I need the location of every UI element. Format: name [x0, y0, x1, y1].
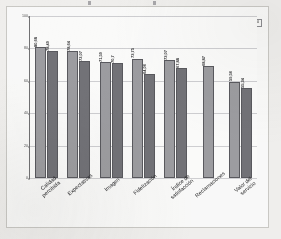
bar[interactable]: 80,68	[35, 47, 46, 178]
bar-value-label: 67,88	[176, 58, 180, 68]
bar[interactable]: 72,07	[79, 61, 90, 178]
bar[interactable]: 67,88	[176, 68, 187, 178]
y-tick-label: 60	[24, 80, 28, 84]
bar[interactable]: 73,07	[164, 60, 175, 178]
bar-groups: 80,6878,4978,6472,0771,5970,773,7564,067…	[30, 16, 257, 178]
crop-mark-left	[88, 1, 91, 5]
bar-group: 68,87	[192, 16, 224, 178]
category-axis-labels: CalidadpercibidaExpectativasImagenFideli…	[29, 180, 257, 224]
bar-group: 71,5970,7	[95, 16, 127, 178]
bar-value-label: 71,59	[99, 52, 103, 62]
bar[interactable]: 78,49	[47, 51, 58, 178]
y-tick-label: 80	[24, 48, 28, 52]
bar-value-label: 73,75	[132, 48, 136, 58]
bar-group: 59,5655,34	[225, 16, 257, 178]
category-label-cell: Reclamaciones	[192, 180, 225, 224]
category-label-cell: Imagen	[94, 180, 127, 224]
bar-group: 78,6472,07	[62, 16, 94, 178]
plot-area: 100 80 60 40 20 0 80,6878,4978,	[29, 16, 257, 179]
category-label-cell: Fidelización	[127, 180, 160, 224]
bar[interactable]: 73,75	[132, 59, 143, 178]
bar[interactable]: 55,34	[241, 88, 252, 178]
chart-frame: 1999 2000 100 80 60 40	[6, 6, 269, 228]
bar[interactable]: 68,87	[203, 66, 214, 178]
bar[interactable]: 70,7	[112, 63, 123, 178]
category-label-cell: Calidadpercibida	[29, 180, 62, 224]
y-tick-label: 0	[26, 177, 28, 181]
bar-value-label: 73,07	[164, 49, 168, 59]
bar-value-label: 68,87	[203, 56, 207, 66]
bar[interactable]: 64,06	[144, 74, 155, 178]
bar-value-label: 70,7	[111, 56, 115, 64]
bar-value-label: 72,07	[79, 51, 83, 61]
category-label-cell: Expectativas	[62, 180, 95, 224]
y-tick-label: 40	[24, 112, 28, 116]
bar-value-label: 80,68	[35, 37, 39, 47]
category-label-cell: Índice desatisfacción	[159, 180, 192, 224]
bar-group: 80,6878,49	[30, 16, 62, 178]
bar-value-label: 55,34	[241, 78, 245, 88]
bar-group: 73,0767,88	[160, 16, 192, 178]
scanned-page: 1999 2000 100 80 60 40	[0, 0, 281, 239]
bar-value-label: 78,49	[47, 41, 51, 51]
y-tick-label: 20	[24, 145, 28, 149]
bar-value-label: 64,06	[144, 64, 148, 74]
crop-mark-right	[153, 1, 156, 5]
bar-value-label: 78,64	[67, 40, 71, 50]
bar[interactable]: 59,56	[229, 82, 240, 178]
bar[interactable]: 71,59	[100, 62, 111, 178]
bar-value-label: 59,56	[229, 71, 233, 81]
category-label-cell: Valor delservicio	[224, 180, 257, 224]
bar-group: 73,7564,06	[127, 16, 159, 178]
bar[interactable]: 78,64	[67, 51, 78, 178]
y-tick-label: 100	[22, 15, 28, 19]
gridline-0: 0	[30, 178, 257, 179]
